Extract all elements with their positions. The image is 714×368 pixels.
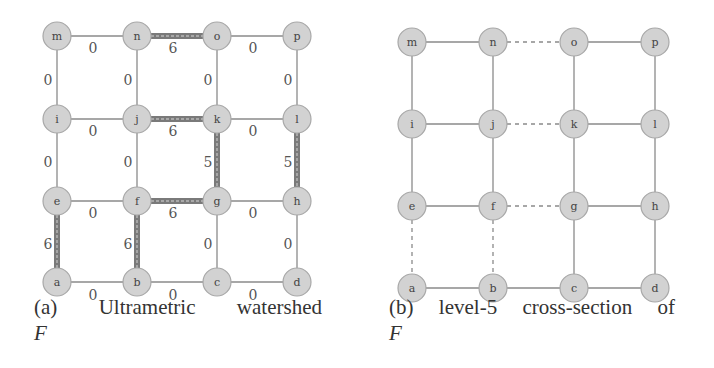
caption-a-word-2: watershed — [237, 294, 322, 320]
node-label: h — [651, 200, 658, 213]
node-label: m — [407, 36, 418, 49]
edge-i-j-weight: 0 — [89, 123, 98, 139]
edge-e-f-weight: 0 — [89, 205, 98, 221]
node-label: l — [653, 118, 657, 131]
node-n: n — [123, 22, 151, 50]
panel-a-ultrametric-watershed: 060060060000000000556600 mnopijklefghabc… — [43, 22, 311, 303]
node-label: c — [571, 282, 577, 295]
node-j: j — [479, 110, 507, 138]
edge-f-b-weight: 6 — [124, 236, 133, 252]
node-label: g — [570, 200, 577, 213]
edge-n-o-weight: 6 — [169, 40, 178, 56]
edge-l-h-weight: 5 — [284, 154, 293, 170]
node-label: p — [651, 36, 658, 49]
node-label: l — [295, 113, 299, 126]
node-label: m — [52, 30, 63, 43]
node-label: a — [409, 282, 416, 295]
panel-b-nodes: mnopijklefghabcd — [398, 28, 669, 302]
edge-g-c-weight: 0 — [204, 236, 213, 252]
node-h: h — [641, 192, 669, 220]
node-c: c — [203, 268, 231, 296]
caption-panel-a: (a) Ultrametric watershed F — [34, 294, 322, 346]
edge-f-g-weight: 6 — [169, 205, 178, 221]
caption-a-variable: F — [34, 320, 322, 346]
node-i: i — [398, 110, 426, 138]
node-o: o — [203, 22, 231, 50]
node-m: m — [398, 28, 426, 56]
node-h: h — [283, 187, 311, 215]
node-label: d — [651, 282, 658, 295]
edge-j-f-weight: 0 — [124, 154, 133, 170]
node-o: o — [560, 28, 588, 56]
node-p: p — [283, 22, 311, 50]
node-g: g — [203, 187, 231, 215]
node-label: c — [214, 276, 220, 289]
node-a: a — [43, 268, 71, 296]
node-j: j — [123, 105, 151, 133]
panel-a-edge-weights: 060060060000000000556600 — [44, 40, 293, 303]
edge-e-a-weight: 6 — [44, 236, 53, 252]
node-label: g — [213, 195, 220, 208]
panel-b-level-5-cross-section: mnopijklefghabcd — [398, 28, 669, 302]
edge-i-e-weight: 0 — [44, 154, 53, 170]
node-l: l — [283, 105, 311, 133]
node-label: a — [54, 276, 61, 289]
edge-n-j-weight: 0 — [124, 72, 133, 88]
edge-o-p-weight: 0 — [249, 40, 258, 56]
node-i: i — [43, 105, 71, 133]
node-label: d — [293, 276, 300, 289]
panel-a-nodes: mnopijklefghabcd — [43, 22, 311, 296]
edge-k-l-weight: 0 — [249, 123, 258, 139]
node-label: h — [293, 195, 300, 208]
node-f: f — [479, 192, 507, 220]
node-l: l — [641, 110, 669, 138]
node-k: k — [560, 110, 588, 138]
node-p: p — [641, 28, 669, 56]
caption-b-variable: F — [389, 320, 675, 346]
edge-m-i-weight: 0 — [44, 72, 53, 88]
node-label: k — [214, 113, 221, 126]
edge-g-h-weight: 0 — [249, 205, 258, 221]
node-k: k — [203, 105, 231, 133]
caption-b-label: (b) — [389, 294, 414, 320]
node-label: p — [293, 30, 300, 43]
node-d: d — [283, 268, 311, 296]
node-label: o — [214, 30, 221, 43]
caption-b-word-1: level-5 — [439, 294, 497, 320]
node-label: k — [571, 118, 578, 131]
caption-b-word-3: of — [657, 294, 675, 320]
caption-a-word-1: Ultrametric — [99, 294, 196, 320]
node-label: i — [410, 118, 414, 131]
node-label: n — [489, 36, 496, 49]
edge-j-k-weight: 6 — [169, 123, 178, 139]
edge-m-n-weight: 0 — [89, 40, 98, 56]
caption-panel-b: (b) level-5 cross-section of F — [389, 294, 675, 346]
node-m: m — [43, 22, 71, 50]
node-label: b — [133, 276, 140, 289]
node-n: n — [479, 28, 507, 56]
panel-a-edges — [57, 36, 297, 282]
node-label: b — [489, 282, 496, 295]
node-label: i — [55, 113, 59, 126]
node-label: e — [409, 200, 416, 213]
panel-b-edges — [412, 42, 655, 288]
edge-o-k-weight: 0 — [204, 72, 213, 88]
node-f: f — [123, 187, 151, 215]
node-b: b — [123, 268, 151, 296]
node-label: o — [571, 36, 578, 49]
edge-p-l-weight: 0 — [284, 72, 293, 88]
node-label: n — [133, 30, 140, 43]
caption-a-label: (a) — [34, 294, 57, 320]
node-e: e — [398, 192, 426, 220]
caption-b-word-2: cross-section — [523, 294, 633, 320]
edge-k-g-weight: 5 — [204, 154, 213, 170]
node-label: e — [54, 195, 61, 208]
edge-h-d-weight: 0 — [284, 236, 293, 252]
node-e: e — [43, 187, 71, 215]
node-g: g — [560, 192, 588, 220]
